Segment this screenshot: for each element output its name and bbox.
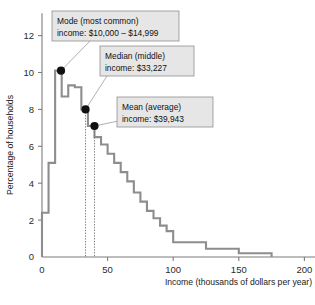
y-tick-label-10: 10 xyxy=(23,67,34,78)
x-tick-label-50: 50 xyxy=(102,264,113,275)
x-tick-label-200: 200 xyxy=(296,264,312,275)
y-axis-title: Percentage of households xyxy=(5,95,15,195)
income-histogram-chart: 024681012050100150200Income (thousands o… xyxy=(0,0,315,305)
mode-leader-line xyxy=(61,41,90,71)
mode-callout-line1: Mode (most common) xyxy=(57,16,139,26)
y-tick-label-8: 8 xyxy=(29,104,34,115)
mean-marker-dot xyxy=(90,122,98,130)
mean-callout-line2: income: $39,943 xyxy=(122,114,184,124)
y-tick-label-0: 0 xyxy=(29,251,34,262)
mode-marker-dot xyxy=(57,67,65,75)
y-tick-label-4: 4 xyxy=(29,178,34,189)
x-tick-label-150: 150 xyxy=(231,264,247,275)
x-tick-label-100: 100 xyxy=(165,264,181,275)
y-tick-label-12: 12 xyxy=(23,30,34,41)
y-tick-label-6: 6 xyxy=(29,141,34,152)
median-marker-dot xyxy=(81,105,89,113)
median-callout-line2: income: $33,227 xyxy=(105,63,167,73)
chart-canvas: 024681012050100150200Income (thousands o… xyxy=(0,0,315,305)
x-tick-label-0: 0 xyxy=(39,264,44,275)
y-tick-label-2: 2 xyxy=(29,215,34,226)
x-axis-title: Income (thousands of dollars per year) xyxy=(165,277,312,287)
median-leader-line xyxy=(86,76,107,109)
mean-callout-line1: Mean (average) xyxy=(122,102,181,112)
median-callout-line1: Median (middle) xyxy=(105,51,165,61)
mode-callout-line2: income: $10,000 – $14,999 xyxy=(57,28,159,38)
